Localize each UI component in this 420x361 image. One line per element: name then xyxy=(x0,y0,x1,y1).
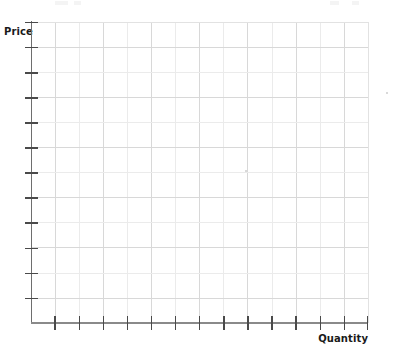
plot-area xyxy=(0,0,420,361)
graph-figure: Price Quantity xyxy=(0,0,420,361)
stray-specks xyxy=(245,92,388,172)
top-edge-artifacts xyxy=(55,1,359,5)
